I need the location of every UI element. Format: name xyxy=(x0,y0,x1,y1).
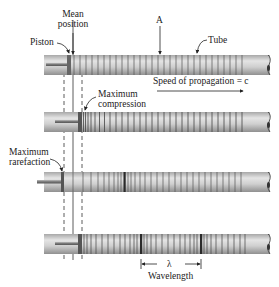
speed-of-propagation-label: Speed of propagation = c xyxy=(153,76,249,86)
max-rarefaction-label: Maximum rarefaction xyxy=(9,147,50,167)
tube-2-max-compression xyxy=(44,112,270,132)
max-rarefaction-line2: rarefaction xyxy=(9,157,50,167)
tube-4-wavelength xyxy=(44,234,270,254)
max-compression-line1: Maximum xyxy=(98,89,146,99)
max-compression-label: Maximum compression xyxy=(98,89,146,109)
wavelength-label: Wavelength xyxy=(148,271,193,281)
piston-label: Piston xyxy=(30,37,54,47)
point-a-label: A xyxy=(156,15,163,25)
lambda-symbol: λ xyxy=(167,259,172,269)
max-compression-line2: compression xyxy=(98,99,146,109)
mean-position-line2: position xyxy=(56,19,90,29)
mean-position-label: Mean position xyxy=(56,9,90,29)
tube-label: Tube xyxy=(208,35,227,45)
max-rarefaction-line1: Maximum xyxy=(9,147,50,157)
tube-1-initial xyxy=(44,55,270,75)
mean-position-line1: Mean xyxy=(56,9,90,19)
tube-3-max-rarefaction xyxy=(37,172,270,192)
